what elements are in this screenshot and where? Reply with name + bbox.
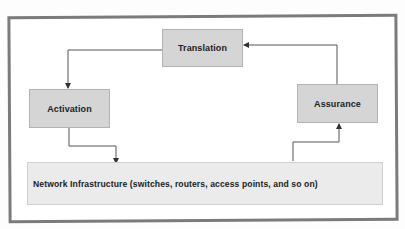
node-translation: Translation xyxy=(162,29,243,67)
node-translation-label: Translation xyxy=(178,43,227,53)
node-network-infrastructure: Network Infrastructure (switches, router… xyxy=(27,162,383,205)
node-assurance: Assurance xyxy=(297,84,378,123)
node-network-label: Network Infrastructure (switches, router… xyxy=(33,179,318,189)
node-activation: Activation xyxy=(29,89,110,128)
diagram-page: Translation Activation Assurance Network… xyxy=(0,0,405,229)
node-assurance-label: Assurance xyxy=(314,99,361,109)
node-activation-label: Activation xyxy=(47,104,92,114)
